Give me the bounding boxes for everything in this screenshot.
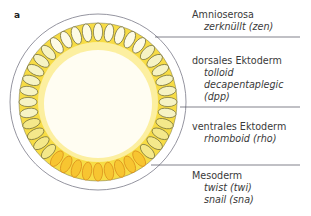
blastoderm-cell — [93, 23, 102, 41]
panel-label: a — [14, 10, 20, 20]
region-title: dorsales Ektoderm — [192, 55, 311, 67]
blastoderm-cell — [159, 97, 177, 106]
label-ventral-ectoderm: ventrales Ektoderm rhomboid (rho) — [192, 121, 286, 145]
gene-name: rhomboid (rho) — [192, 133, 286, 145]
gene-name: twist (twi) — [192, 182, 254, 194]
gene-name: zerknüllt (zen) — [192, 21, 273, 33]
gene-name: tolloid — [192, 67, 311, 79]
region-title: Amnioserosa — [192, 9, 273, 21]
label-amnioserosa: Amnioserosa zerknüllt (zen) — [192, 9, 273, 33]
gene-name: decapentaplegic (dpp) — [192, 79, 311, 103]
yolk-center — [44, 50, 152, 158]
gene-name: snail (sna) — [192, 194, 254, 206]
label-dorsal-ectoderm: dorsales Ektoderm tolloid decapentaplegi… — [192, 55, 311, 103]
embryo-cross-section-figure: a Amnioserosa zerknüllt (zen) dorsales E… — [0, 0, 311, 216]
blastoderm-cell — [93, 163, 102, 181]
region-title: ventrales Ektoderm — [192, 121, 286, 133]
blastoderm-cell — [19, 97, 37, 106]
label-mesoderm: Mesoderm twist (twi) snail (sna) — [192, 170, 254, 206]
region-title: Mesoderm — [192, 170, 254, 182]
